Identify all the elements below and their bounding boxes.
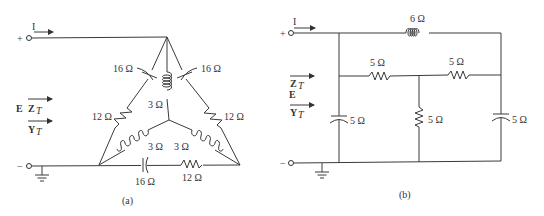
ground-icon [315,163,329,178]
resistor-icon [114,108,132,128]
center-res-label: 5 Ω [428,114,443,125]
panel-b: + I 6 Ω 5 Ω 5 Ω 5 Ω 5 Ω 5 Ω [280,13,527,201]
plus-sign: + [17,33,23,44]
left-res-label: 12 Ω [92,111,112,122]
impedance-subscript: T [36,105,43,116]
impedance-subscript: T [298,80,305,91]
bottom-wire [294,161,502,163]
left-cap-label: 5 Ω [350,115,365,126]
bottom-cap-label: 16 Ω [135,176,155,187]
top-wire [32,37,168,38]
current-label: I [293,16,296,27]
left-ind-label: 3 Ω [148,141,163,152]
resistor-icon [448,71,469,79]
inductor-icon [406,29,419,37]
caption-b: (b) [399,189,411,201]
inductor-icon [192,130,223,151]
resistor-icon [369,72,390,80]
ground-icon [35,166,49,181]
capacitor-icon [137,68,153,80]
minus-sign: − [280,158,286,169]
resistor-icon [415,107,423,127]
panel-a: + I − E Z T Y T [16,21,244,207]
caption-a: (a) [122,195,133,207]
delta-bottom-branch: 16 Ω 12 Ω [135,157,203,187]
impedance-label: Z [290,78,297,89]
plus-sign: + [280,28,286,39]
top-ind-label: 3 Ω [148,99,163,110]
admittance-label: Y [28,124,36,135]
voltage-label: E [16,103,23,114]
inductor-icon [163,72,172,90]
minus-terminal [289,161,294,166]
right-cap-label: 5 Ω [512,114,527,125]
admittance-subscript: T [36,126,43,137]
voltage-label: E [289,89,296,100]
circuit-diagrams: + I − E Z T Y T [0,0,544,216]
right-cap-label: 16 Ω [201,63,221,74]
admittance-subscript: T [298,109,305,120]
minus-sign: − [17,161,23,172]
minus-terminal [27,164,32,169]
plus-terminal [289,31,294,36]
current-label: I [32,21,35,32]
top-ind-label: 6 Ω [410,13,425,24]
bottom-res-label: 12 Ω [182,172,202,183]
inductor-icon [117,130,148,151]
right-res-label: 12 Ω [224,111,244,122]
right-ind-label: 3 Ω [174,141,189,152]
bottom-wire [32,165,241,166]
resistor-icon [204,108,222,128]
wye-network: 3 Ω 3 Ω 3 Ω [99,37,240,165]
admittance-label: Y [290,107,298,118]
mid-right-res-label: 5 Ω [449,56,464,67]
mid-left-res-label: 5 Ω [370,57,385,68]
plus-terminal [27,36,32,41]
left-cap-label: 16 Ω [113,63,133,74]
impedance-label: Z [28,103,35,114]
capacitor-icon [181,68,197,80]
